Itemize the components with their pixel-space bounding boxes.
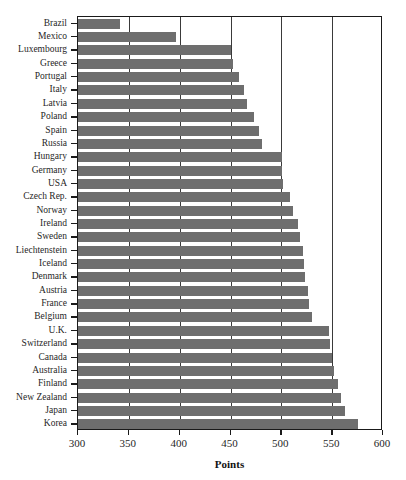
category-label: Austria	[0, 285, 67, 295]
category-label: Czech Rep.	[0, 191, 67, 201]
category-label: Liechtenstein	[0, 245, 67, 255]
category-label: Australia	[0, 365, 67, 375]
x-tick-label: 350	[108, 437, 148, 449]
category-label: Finland	[0, 378, 67, 388]
bar	[78, 326, 329, 336]
category-label: Sweden	[0, 231, 67, 241]
bar	[78, 353, 332, 363]
x-tick-label: 600	[362, 437, 402, 449]
bar	[78, 99, 247, 109]
bar	[78, 126, 259, 136]
bar	[78, 19, 120, 29]
category-label: Iceland	[0, 258, 67, 268]
x-axis-title: Points	[77, 458, 382, 470]
bar	[78, 32, 176, 42]
bar	[78, 312, 312, 322]
category-label: New Zealand	[0, 392, 67, 402]
bar	[78, 379, 338, 389]
x-tick-300	[77, 430, 78, 435]
category-label: Brazil	[0, 18, 67, 28]
bar	[78, 206, 293, 216]
x-tick-label: 500	[260, 437, 300, 449]
category-label: Germany	[0, 165, 67, 175]
category-label: France	[0, 298, 67, 308]
bar	[78, 192, 290, 202]
bar	[78, 272, 305, 282]
bar	[78, 286, 308, 296]
bar	[78, 259, 304, 269]
bar	[78, 59, 233, 69]
category-label: Portugal	[0, 71, 67, 81]
category-label: Spain	[0, 125, 67, 135]
category-label: Italy	[0, 84, 67, 94]
category-label: Korea	[0, 418, 67, 428]
x-tick-400	[179, 430, 180, 435]
bar	[78, 85, 244, 95]
category-label: Poland	[0, 111, 67, 121]
x-tick-450	[230, 430, 231, 435]
x-tick-550	[331, 430, 332, 435]
category-axis: BrazilMexicoLuxembourgGreecePortugalItal…	[0, 16, 73, 430]
bar-chart-figure: Scores BrazilMexicoLuxembourgGreecePortu…	[0, 0, 406, 480]
x-tick-label: 400	[159, 437, 199, 449]
category-label: Ireland	[0, 218, 67, 228]
bar	[78, 419, 358, 429]
category-label: Norway	[0, 205, 67, 215]
category-label: Russia	[0, 138, 67, 148]
bars-layer	[78, 17, 381, 429]
x-tick-label: 450	[210, 437, 250, 449]
bar	[78, 112, 254, 122]
x-tick-350	[128, 430, 129, 435]
x-tick-label: 550	[311, 437, 351, 449]
x-tick-label: 300	[57, 437, 97, 449]
plot-area	[77, 16, 382, 430]
bar	[78, 299, 309, 309]
bar	[78, 393, 341, 403]
x-tick-500	[280, 430, 281, 435]
category-label: Latvia	[0, 98, 67, 108]
category-label: Japan	[0, 405, 67, 415]
bar	[78, 406, 345, 416]
category-label: Denmark	[0, 271, 67, 281]
bar	[78, 179, 283, 189]
x-tick-600	[382, 430, 383, 435]
category-label: Mexico	[0, 31, 67, 41]
bar	[78, 152, 282, 162]
bar	[78, 366, 334, 376]
category-label: Canada	[0, 352, 67, 362]
bar	[78, 166, 282, 176]
bar	[78, 139, 262, 149]
bar	[78, 246, 303, 256]
category-label: Belgium	[0, 311, 67, 321]
category-label: Hungary	[0, 151, 67, 161]
bar	[78, 72, 239, 82]
category-label: Switzerland	[0, 338, 67, 348]
bar	[78, 232, 300, 242]
category-label: U.K.	[0, 325, 67, 335]
category-label: Luxembourg	[0, 44, 67, 54]
category-label: Greece	[0, 58, 67, 68]
bar	[78, 339, 330, 349]
category-label: USA	[0, 178, 67, 188]
bar	[78, 219, 298, 229]
bar	[78, 45, 231, 55]
